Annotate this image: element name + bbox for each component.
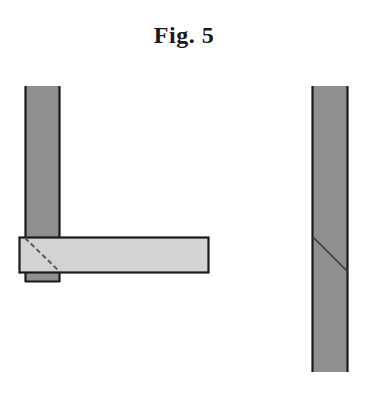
left-assembly [20,86,209,282]
right-assembly [312,86,348,372]
joinery-diagram [0,0,368,394]
horizontal-board [20,238,209,273]
right-vertical-post [312,86,348,372]
